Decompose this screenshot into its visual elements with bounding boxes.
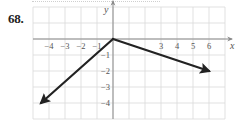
x-tick-label: −2 xyxy=(76,41,85,51)
y-tick-label: −2 xyxy=(101,66,110,76)
x-axis-label: x xyxy=(229,40,235,51)
y-tick-label: −4 xyxy=(101,98,111,108)
x-tick-label: −4 xyxy=(44,41,54,51)
x-tick-label: 6 xyxy=(207,41,211,51)
coordinate-graph: xy −4−3−2−13456−1−2−3−4 xyxy=(0,0,241,127)
y-tick-label: −1 xyxy=(101,50,110,60)
x-tick-label: 3 xyxy=(159,41,163,51)
grid-lines xyxy=(33,7,225,119)
x-tick-label: 5 xyxy=(191,41,195,51)
y-tick-label: −3 xyxy=(101,82,110,92)
y-axis-label: y xyxy=(103,4,109,15)
tick-labels: −4−3−2−13456−1−2−3−4 xyxy=(44,41,211,108)
x-tick-label: 4 xyxy=(175,41,180,51)
x-tick-label: −3 xyxy=(60,41,69,51)
axes: xy xyxy=(33,1,235,119)
